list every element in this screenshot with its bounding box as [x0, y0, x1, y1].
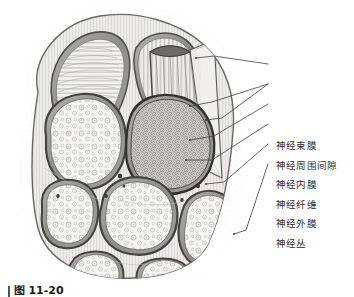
fascicle-lower-left: [42, 180, 99, 248]
label-perineural-space: 神经周围间隙: [276, 156, 354, 176]
label-endoneurium: 神经内膜: [276, 175, 354, 195]
label-nerve-fiber: 神经纤维: [276, 195, 354, 215]
label-endoneurium-text: 神经内膜: [276, 180, 317, 190]
label-column: 神经束膜 神经周围间隙 神经内膜 神经纤维 神经外膜 神经丛: [276, 136, 354, 253]
label-epineurium-text: 神经外膜: [276, 219, 317, 229]
label-nerve-fiber-text: 神经纤维: [276, 200, 317, 210]
label-perineurium: 神经束膜: [276, 136, 354, 156]
caption-text: 图 11-20: [14, 285, 64, 296]
label-perineurium-text: 神经束膜: [276, 141, 317, 151]
fascicle-left: [45, 94, 126, 189]
label-nerve-plexus-text: 神经丛: [276, 239, 307, 249]
figure-page: 神经束膜 神经周围间隙 神经内膜 神经纤维 神经外膜 神经丛 图 11-20: [0, 0, 354, 297]
label-perineural-space-text: 神经周围间隙: [276, 161, 337, 171]
nerve-cross-section-illustration: [0, 0, 270, 280]
label-nerve-plexus: 神经丛: [276, 234, 354, 254]
figure-caption: 图 11-20: [8, 285, 64, 297]
illustration-canvas: [0, 0, 270, 280]
fascicle-lower-center: [100, 177, 178, 255]
caption-rule: [8, 286, 10, 297]
label-epineurium: 神经外膜: [276, 214, 354, 234]
